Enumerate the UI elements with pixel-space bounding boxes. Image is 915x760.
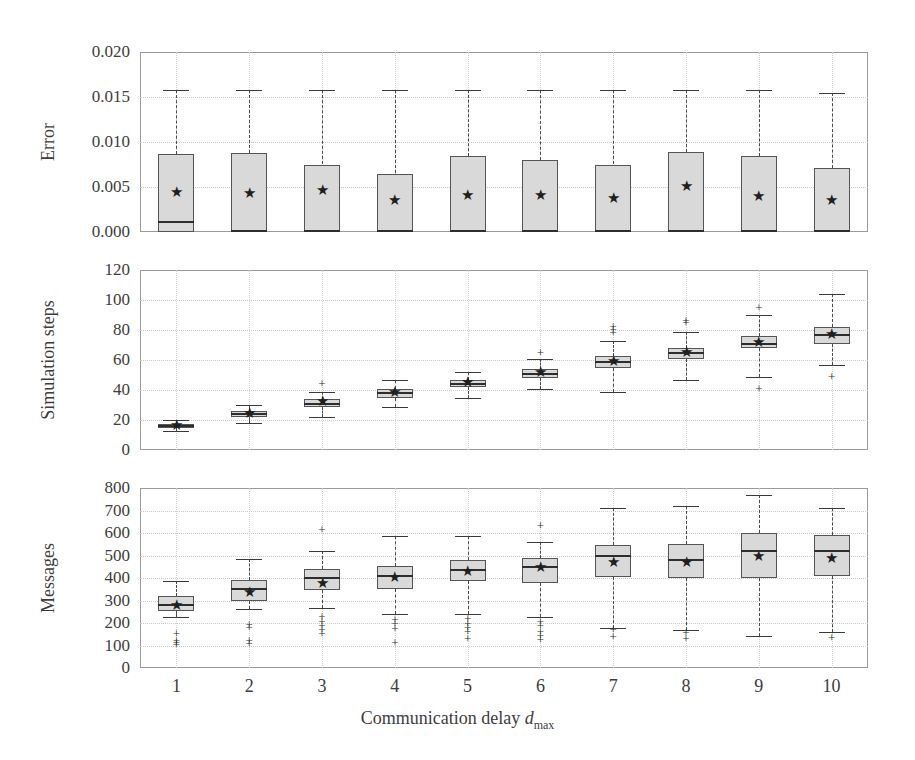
x-tick-label: 3 [302, 676, 342, 697]
panel-messages: 0100200300400500600700800Messages★++++★+… [0, 0, 915, 760]
x-tick-label: 2 [229, 676, 269, 697]
x-tick-label: 7 [593, 676, 633, 697]
mean-marker-star: ★ [823, 551, 841, 566]
whisker-upper [832, 508, 833, 535]
x-axis-title-subscript: max [534, 718, 555, 732]
x-tick-label: 1 [156, 676, 196, 697]
x-tick-label: 10 [812, 676, 852, 697]
figure-canvas: 0.0000.0050.0100.0150.020Error★★★★★★★★★★… [0, 0, 915, 760]
x-axis-title-variable: d [525, 708, 534, 728]
x-axis-title-text: Communication delay [361, 708, 525, 728]
x-tick-label: 8 [666, 676, 706, 697]
x-tick-label: 4 [375, 676, 415, 697]
boxplot-group: ★+ [0, 0, 915, 760]
outlier-marker: + [825, 633, 839, 642]
whisker-cap-upper [819, 508, 845, 509]
whisker-lower [832, 576, 833, 631]
x-axis-title: Communication delay dmax [0, 708, 915, 733]
x-tick-label: 9 [739, 676, 779, 697]
x-tick-label: 5 [448, 676, 488, 697]
x-tick-label: 6 [520, 676, 560, 697]
